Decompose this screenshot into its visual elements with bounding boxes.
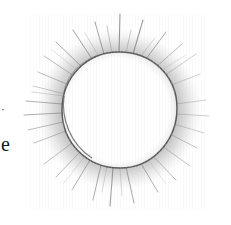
sun-drawing bbox=[0, 0, 231, 225]
margin-text-fragment-mark: · bbox=[1, 104, 5, 115]
scanned-page: · e bbox=[0, 0, 231, 225]
margin-text-fragment-letter: e bbox=[1, 134, 10, 154]
scan-banding bbox=[28, 14, 206, 210]
